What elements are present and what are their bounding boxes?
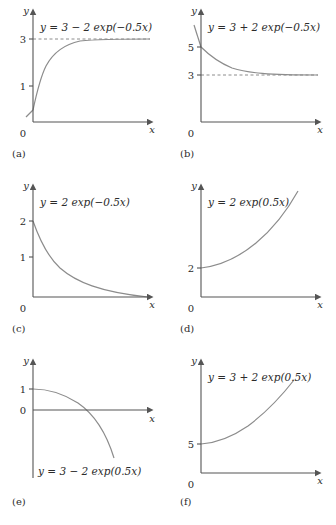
panel-caption-f: (f) xyxy=(180,496,192,507)
origin-label: 0 xyxy=(188,128,194,139)
y-axis-label: y xyxy=(22,5,29,16)
y-axis-label: y xyxy=(22,355,29,366)
panel-caption-c: (c) xyxy=(12,323,25,334)
x-axis-label: x xyxy=(317,299,323,310)
curve-extension xyxy=(26,110,33,117)
equation-label: y = 2 exp(0.5x) xyxy=(207,196,289,208)
x-axis-label: x xyxy=(149,413,155,424)
curve xyxy=(33,389,114,458)
origin-label: 0 xyxy=(188,479,194,490)
ytick-label-3: 3 xyxy=(20,34,26,45)
ytick-label-2: 2 xyxy=(188,263,194,274)
panel-e: 1 0 x y y = 3 − 2 exp(0.5x) (e) xyxy=(0,350,168,500)
ytick-label-1: 1 xyxy=(20,252,26,263)
equation-label: y = 3 − 2 exp(−0.5x) xyxy=(39,21,152,33)
panel-a: 3 1 0 x y y = 3 − 2 exp(−0.5x) (a) xyxy=(0,0,168,145)
curve xyxy=(201,47,318,75)
ytick-label-5: 5 xyxy=(188,42,194,53)
panel-d-plot: 2 0 x y y = 2 exp(0.5x) xyxy=(168,175,336,320)
curve xyxy=(201,380,294,444)
panel-caption-d: (d) xyxy=(180,323,194,334)
y-axis-label: y xyxy=(22,180,29,191)
ytick-label-0: 0 xyxy=(20,405,26,416)
ytick-label-3: 3 xyxy=(188,70,194,81)
curve xyxy=(33,221,148,297)
panel-caption-e: (e) xyxy=(12,496,26,507)
origin-label: 0 xyxy=(188,303,194,314)
ytick-label-2: 2 xyxy=(20,216,26,227)
curve xyxy=(33,39,150,110)
y-axis-label: y xyxy=(190,5,197,16)
panel-f: 5 0 x y y = 3 + 2 exp(0.5x) (f) xyxy=(168,350,336,500)
panel-c-plot: 2 1 0 x y y = 2 exp(−0.5x) xyxy=(0,175,168,320)
equation-label: y = 2 exp(−0.5x) xyxy=(39,196,130,208)
panel-b: 5 3 0 x y y = 3 + 2 exp(−0.5x) (b) xyxy=(168,0,336,145)
y-axis-label: y xyxy=(190,180,197,191)
origin-label: 0 xyxy=(20,303,26,314)
curve-extension xyxy=(194,25,201,47)
equation-label: y = 3 + 2 exp(−0.5x) xyxy=(207,21,320,33)
ytick-label-1: 1 xyxy=(20,81,26,92)
y-axis-label: y xyxy=(190,355,197,366)
origin-label: 0 xyxy=(20,128,26,139)
panel-b-plot: 5 3 0 x y y = 3 + 2 exp(−0.5x) xyxy=(168,0,336,145)
panel-d: 2 0 x y y = 2 exp(0.5x) (d) xyxy=(168,175,336,320)
panel-caption-a: (a) xyxy=(12,148,26,159)
panel-e-plot: 1 0 x y y = 3 − 2 exp(0.5x) xyxy=(0,350,168,500)
figure-exponential-graphs: 3 1 0 x y y = 3 − 2 exp(−0.5x) (a) 5 3 0… xyxy=(0,0,336,525)
x-axis-label: x xyxy=(317,124,323,135)
panel-c: 2 1 0 x y y = 2 exp(−0.5x) (c) xyxy=(0,175,168,320)
x-axis-label: x xyxy=(149,124,155,135)
x-axis-label: x xyxy=(149,299,155,310)
panel-a-plot: 3 1 0 x y y = 3 − 2 exp(−0.5x) xyxy=(0,0,168,145)
ytick-label-1: 1 xyxy=(20,384,26,395)
panel-f-plot: 5 0 x y y = 3 + 2 exp(0.5x) xyxy=(168,350,336,500)
equation-label: y = 3 + 2 exp(0.5x) xyxy=(207,371,311,383)
ytick-label-5: 5 xyxy=(188,439,194,450)
panel-caption-b: (b) xyxy=(180,148,194,159)
equation-label: y = 3 − 2 exp(0.5x) xyxy=(37,465,141,477)
x-axis-label: x xyxy=(317,475,323,486)
